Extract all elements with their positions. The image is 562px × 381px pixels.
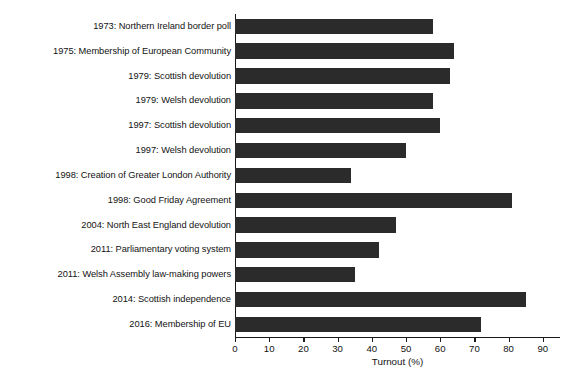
bar-row <box>235 138 560 163</box>
bar <box>235 193 512 208</box>
x-tick-mark <box>372 338 373 343</box>
category-label: 1979: Welsh devolution <box>0 95 231 106</box>
bar <box>235 68 450 83</box>
x-tick-label: 90 <box>523 343 562 354</box>
category-label: 1975: Membership of European Community <box>0 46 231 57</box>
bar <box>235 118 440 133</box>
category-label: 2014: Scottish independence <box>0 294 231 305</box>
bar <box>235 242 379 257</box>
bar-row <box>235 287 560 312</box>
category-label: 1997: Scottish devolution <box>0 120 231 131</box>
category-label: 1998: Creation of Greater London Authori… <box>0 170 231 181</box>
bar-row <box>235 213 560 238</box>
x-tick-mark <box>269 338 270 343</box>
category-label: 1998: Good Friday Agreement <box>0 195 231 206</box>
x-tick-mark <box>303 338 304 343</box>
x-tick-mark <box>338 338 339 343</box>
category-label: 1979: Scottish devolution <box>0 71 231 82</box>
bar-row <box>235 238 560 263</box>
bar <box>235 43 454 58</box>
category-label: 2011: Parliamentary voting system <box>0 244 231 255</box>
bar <box>235 317 481 332</box>
bar <box>235 217 396 232</box>
bar <box>235 143 406 158</box>
bar <box>235 267 355 282</box>
bar-row <box>235 163 560 188</box>
x-tick-mark <box>543 338 544 343</box>
x-axis-title: Turnout (%) <box>235 356 560 367</box>
bar-row <box>235 188 560 213</box>
bar-row <box>235 113 560 138</box>
bar <box>235 93 433 108</box>
category-label: 2011: Welsh Assembly law-making powers <box>0 269 231 280</box>
bar-row <box>235 89 560 114</box>
bar-row <box>235 39 560 64</box>
bar-row <box>235 64 560 89</box>
x-tick-mark <box>406 338 407 343</box>
bar-row <box>235 14 560 39</box>
bar <box>235 292 526 307</box>
chart-figure: 1973: Northern Ireland border poll1975: … <box>0 0 562 381</box>
bar-row <box>235 312 560 337</box>
x-tick-mark <box>235 338 236 343</box>
x-tick-mark <box>440 338 441 343</box>
x-tick-mark <box>474 338 475 343</box>
bar <box>235 19 433 34</box>
category-label: 2016: Membership of EU <box>0 319 231 330</box>
bar <box>235 168 351 183</box>
category-label: 1997: Welsh devolution <box>0 145 231 156</box>
category-label: 2004: North East England devolution <box>0 220 231 231</box>
bar-row <box>235 263 560 288</box>
category-label: 1973: Northern Ireland border poll <box>0 21 231 32</box>
x-tick-mark <box>509 338 510 343</box>
plot-area <box>235 14 560 337</box>
